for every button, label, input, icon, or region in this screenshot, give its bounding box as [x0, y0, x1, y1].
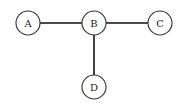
node-a-label: A: [23, 18, 32, 29]
node-b: B: [82, 11, 106, 35]
node-d: D: [82, 75, 106, 99]
node-d-label: D: [90, 82, 98, 93]
node-b-label: B: [90, 18, 97, 29]
node-a: A: [16, 11, 40, 35]
node-c: C: [148, 11, 172, 35]
graph-diagram: A B C D: [0, 0, 185, 108]
node-c-label: C: [156, 18, 164, 29]
